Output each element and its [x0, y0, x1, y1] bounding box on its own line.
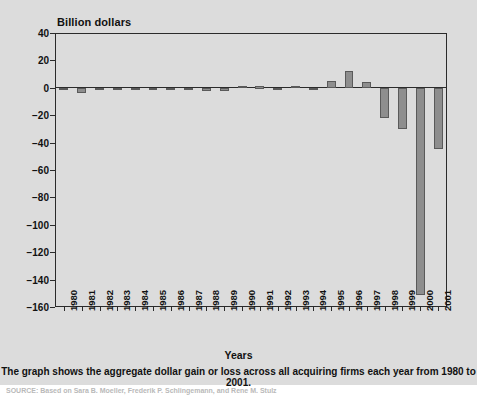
- bar: [202, 88, 211, 91]
- y-axis-tick-mark: [50, 307, 55, 308]
- y-axis-tick-label: −140: [19, 274, 49, 285]
- y-axis-tick-mark: [50, 115, 55, 116]
- x-axis-tick-label: 1981: [86, 290, 97, 311]
- x-axis-tick-mark: [385, 307, 386, 311]
- plot-area: [55, 33, 447, 307]
- x-axis-tick-mark: [224, 307, 225, 311]
- x-axis-tick-mark: [242, 307, 243, 311]
- x-axis-tick-label: 1987: [193, 290, 204, 311]
- bar: [255, 86, 264, 89]
- x-axis-tick-mark: [349, 307, 350, 311]
- x-axis-tick-label: 1996: [353, 290, 364, 311]
- x-axis-tick-label: 1992: [282, 290, 293, 311]
- x-axis-tick-label: 2000: [424, 290, 435, 311]
- y-axis-tick-label: −100: [19, 219, 49, 230]
- y-axis-title: Billion dollars: [57, 16, 131, 28]
- y-axis-tick-label: −40: [19, 137, 49, 148]
- x-axis-tick-mark: [82, 307, 83, 311]
- x-axis-tick-label: 1983: [121, 290, 132, 311]
- y-axis-tick-label: −20: [19, 110, 49, 121]
- bar: [362, 82, 371, 88]
- x-axis-tick-label: 1982: [104, 290, 115, 311]
- x-axis-tick-label: 1980: [68, 290, 79, 311]
- bar: [327, 81, 336, 88]
- bar: [166, 88, 175, 91]
- y-axis-tick-mark: [50, 280, 55, 281]
- x-axis-tick-mark: [100, 307, 101, 311]
- bar: [309, 88, 318, 91]
- y-axis-tick-label: −160: [19, 302, 49, 313]
- bar: [95, 88, 104, 91]
- x-axis-tick-label: 1995: [335, 290, 346, 311]
- y-axis-tick-label: −60: [19, 165, 49, 176]
- x-axis-tick-mark: [420, 307, 421, 311]
- x-axis-tick-mark: [331, 307, 332, 311]
- x-axis-tick-mark: [135, 307, 136, 311]
- x-axis-tick-mark: [438, 307, 439, 311]
- bar: [59, 88, 68, 91]
- y-axis-tick-mark: [50, 33, 55, 34]
- x-axis-tick-label: 1993: [300, 290, 311, 311]
- y-axis-tick-mark: [50, 60, 55, 61]
- bar: [398, 88, 407, 129]
- x-axis-title: Years: [0, 349, 477, 361]
- bar: [416, 88, 425, 295]
- x-axis-tick-mark: [278, 307, 279, 311]
- bar: [149, 88, 158, 91]
- x-axis-tick-label: 1998: [389, 290, 400, 311]
- bar: [113, 88, 122, 91]
- x-axis-tick-label: 1994: [317, 290, 328, 311]
- bar: [77, 88, 86, 93]
- x-axis-tick-mark: [402, 307, 403, 311]
- bar: [220, 88, 229, 91]
- x-axis-tick-mark: [171, 307, 172, 311]
- x-axis-tick-mark: [296, 307, 297, 311]
- x-axis-tick-label: 1997: [371, 290, 382, 311]
- bar: [184, 88, 193, 91]
- x-axis-tick-mark: [206, 307, 207, 311]
- bar: [273, 88, 282, 91]
- figure-caption: The graph shows the aggregate dollar gai…: [0, 366, 477, 388]
- x-axis-tick-mark: [260, 307, 261, 311]
- y-axis-tick-label: −120: [19, 247, 49, 258]
- bar: [380, 88, 389, 118]
- x-axis-tick-mark: [64, 307, 65, 311]
- y-axis-tick-mark: [50, 88, 55, 89]
- y-axis-tick-mark: [50, 170, 55, 171]
- x-axis-tick-label: 1984: [139, 290, 150, 311]
- x-axis-tick-mark: [367, 307, 368, 311]
- bar: [238, 86, 247, 89]
- x-axis-tick-label: 1985: [157, 290, 168, 311]
- x-axis-tick-mark: [117, 307, 118, 311]
- bar: [291, 86, 300, 89]
- source-note: SOURCE: Based on Sara B. Moeller, Freder…: [6, 387, 476, 396]
- y-axis-tick-mark: [50, 225, 55, 226]
- x-axis-tick-label: 1990: [246, 290, 257, 311]
- figure-panel: Billion dollars 40200−20−40−60−80−100−12…: [0, 0, 477, 385]
- bar: [131, 88, 140, 91]
- x-axis-tick-label: 1988: [210, 290, 221, 311]
- bar: [434, 88, 443, 150]
- x-axis-tick-mark: [313, 307, 314, 311]
- x-axis-tick-mark: [189, 307, 190, 311]
- x-axis-tick-label: 1989: [228, 290, 239, 311]
- x-axis-tick-label: 1991: [264, 290, 275, 311]
- y-axis-tick-mark: [50, 143, 55, 144]
- y-axis-tick-label: −80: [19, 192, 49, 203]
- x-axis-tick-mark: [153, 307, 154, 311]
- y-axis-tick-label: 20: [19, 55, 49, 66]
- y-axis-tick-mark: [50, 197, 55, 198]
- bar: [345, 71, 354, 87]
- x-axis-tick-label: 2001: [442, 290, 453, 311]
- y-axis-tick-label: 0: [19, 82, 49, 93]
- x-axis-tick-label: 1986: [175, 290, 186, 311]
- x-axis-tick-label: 1999: [406, 290, 417, 311]
- y-axis-tick-mark: [50, 252, 55, 253]
- y-axis-tick-label: 40: [19, 28, 49, 39]
